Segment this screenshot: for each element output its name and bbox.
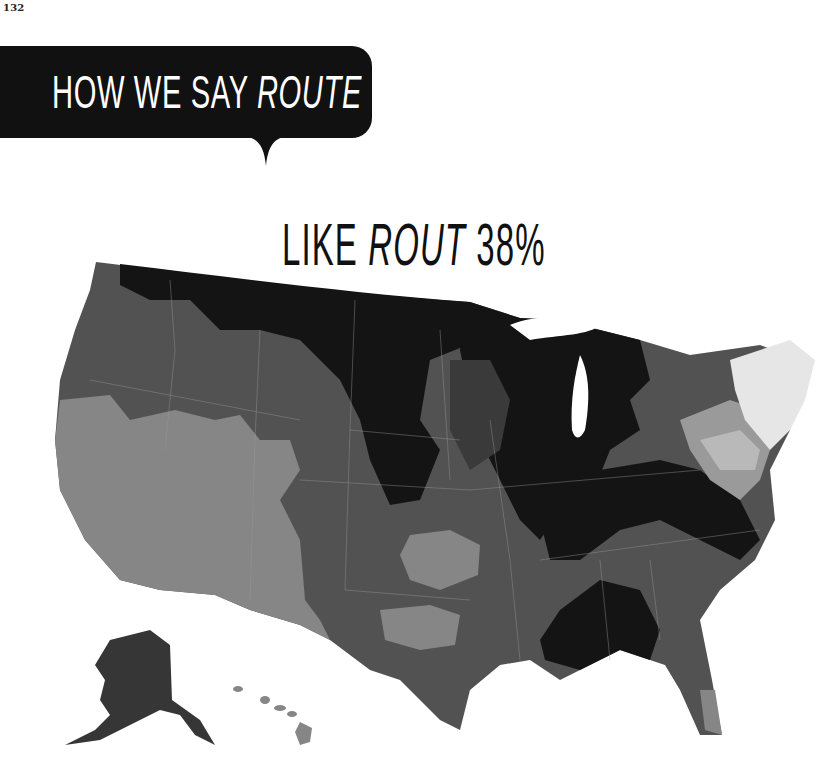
us-choropleth-map <box>0 0 821 760</box>
alaska <box>65 630 215 745</box>
hawaii <box>233 686 312 745</box>
